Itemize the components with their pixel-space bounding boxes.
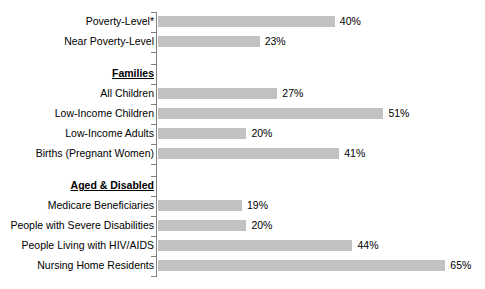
chart-row: Poverty-Level*40% [0,12,485,32]
category-label: Nursing Home Residents [0,259,154,272]
axis-tick [151,12,156,13]
category-label: Births (Pregnant Women) [0,147,154,160]
chart-row: People with Severe Disabilities20% [0,216,485,236]
category-label: People with Severe Disabilities [0,219,154,232]
chart-row: Nursing Home Residents65% [0,256,485,276]
bar-value-label: 51% [388,107,409,120]
axis-tick [151,124,156,125]
axis-tick [151,196,156,197]
chart-rows: Poverty-Level*40%Near Poverty-Level23%Fa… [0,12,485,276]
chart-row: All Children27% [0,84,485,104]
bar-value-label: 65% [450,259,471,272]
category-label: All Children [0,87,154,100]
bar [158,108,383,119]
category-label: Poverty-Level* [0,15,154,28]
axis-tick [151,64,156,65]
category-label: Near Poverty-Level [0,35,154,48]
chart-row: Low-Income Children51% [0,104,485,124]
axis-tick [151,32,156,33]
section-header-text: Families [112,67,154,79]
chart-row: People Living with HIV/AIDS44% [0,236,485,256]
bar-value-label: 41% [344,147,365,160]
axis-tick [151,84,156,85]
section-header-row: Families [0,64,485,84]
axis-tick [151,236,156,237]
spacer-row [0,52,485,64]
axis-tick [151,52,156,53]
category-label: Medicare Beneficiaries [0,199,154,212]
bar-chart: Poverty-Level*40%Near Poverty-Level23%Fa… [0,0,485,289]
chart-row: Births (Pregnant Women)41% [0,144,485,164]
bar [158,16,335,27]
bar-value-label: 27% [282,87,303,100]
axis-tick [151,216,156,217]
chart-row: Low-Income Adults20% [0,124,485,144]
bar-value-label: 20% [251,127,272,140]
section-header-label: Families [0,67,154,80]
axis-tick [151,276,156,277]
bar [158,200,242,211]
bar [158,260,445,271]
spacer-row [0,164,485,176]
axis-tick [151,256,156,257]
bar-value-label: 23% [265,35,286,48]
bar-value-label: 19% [247,199,268,212]
category-label: People Living with HIV/AIDS [0,239,154,252]
section-header-text: Aged & Disabled [71,179,154,191]
bar-value-label: 40% [340,15,361,28]
bar [158,220,246,231]
section-header-label: Aged & Disabled [0,179,154,192]
chart-row: Medicare Beneficiaries19% [0,196,485,216]
bar [158,128,246,139]
axis-tick [151,104,156,105]
category-label: Low-Income Children [0,107,154,120]
bar [158,240,352,251]
category-label: Low-Income Adults [0,127,154,140]
chart-row: Near Poverty-Level23% [0,32,485,52]
axis-tick [151,176,156,177]
axis-tick [151,164,156,165]
axis-tick [151,144,156,145]
bar [158,36,260,47]
bar [158,148,339,159]
bar [158,88,277,99]
bar-value-label: 44% [357,239,378,252]
section-header-row: Aged & Disabled [0,176,485,196]
bar-value-label: 20% [251,219,272,232]
